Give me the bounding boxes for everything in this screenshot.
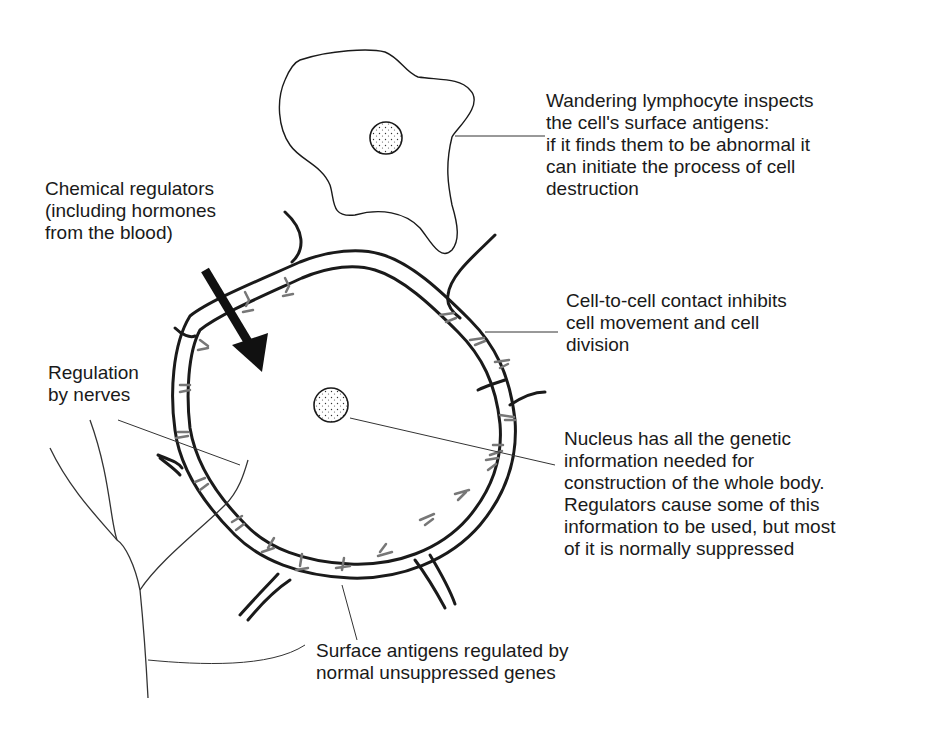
lymphocyte-label-line-5: destruction xyxy=(546,178,814,200)
lymphocyte-label-line-4: can initiate the process of cell xyxy=(546,156,814,178)
nerves-label: Regulation by nerves xyxy=(48,362,139,406)
nucleus-label-line-2: information needed for xyxy=(564,450,835,472)
antigen-curve-line xyxy=(148,645,305,664)
lymphocyte-label-line-1: Wandering lymphocyte inspects xyxy=(546,90,814,112)
contact-label-line-1: Cell-to-cell contact inhibits xyxy=(566,290,787,312)
chemical-label-line-3: from the blood) xyxy=(45,222,216,244)
nucleus-label: Nucleus has all the genetic information … xyxy=(564,428,835,560)
chemical-regulators-label: Chemical regulators (including hormones … xyxy=(45,178,216,244)
contact-label-line-3: division xyxy=(566,334,787,356)
lymphocyte-label-line-2: the cell's surface antigens: xyxy=(546,112,814,134)
antigens-label-line-2: normal unsuppressed genes xyxy=(316,662,568,684)
nerves-label-line-2: by nerves xyxy=(48,384,139,406)
nerves-label-line-1: Regulation xyxy=(48,362,139,384)
nucleus-label-line-4: Regulators cause some of this xyxy=(564,494,835,516)
chemical-label-line-1: Chemical regulators xyxy=(45,178,216,200)
nucleus-label-line-3: construction of the whole body. xyxy=(564,472,835,494)
contact-inhibition-label: Cell-to-cell contact inhibits cell movem… xyxy=(566,290,787,356)
neighbour-cell-membranes xyxy=(158,212,545,620)
lymphocyte-label: Wandering lymphocyte inspects the cell's… xyxy=(546,90,814,200)
lymphocyte-label-line-3: if it finds them to be abnormal it xyxy=(546,134,814,156)
antigen-leader-line xyxy=(342,585,357,640)
nucleus-label-line-6: of it is normally suppressed xyxy=(564,538,835,560)
nucleus-label-line-5: information to be used, but most xyxy=(564,516,835,538)
contact-label-line-2: cell movement and cell xyxy=(566,312,787,334)
nerve-fibre xyxy=(50,420,248,698)
nerve-leader-line xyxy=(118,420,240,465)
chemical-label-line-2: (including hormones xyxy=(45,200,216,222)
surface-antigens-label: Surface antigens regulated by normal uns… xyxy=(316,640,568,684)
antigens-label-line-1: Surface antigens regulated by xyxy=(316,640,568,662)
cell-nucleus xyxy=(314,388,348,422)
lymphocyte-nucleus xyxy=(370,122,402,154)
nucleus-label-line-1: Nucleus has all the genetic xyxy=(564,428,835,450)
lymphocyte xyxy=(279,50,545,253)
nucleus-leader-line xyxy=(350,418,555,465)
